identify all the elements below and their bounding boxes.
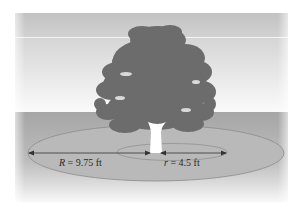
tree-area-diagram: R = 9.75 ft r = 4.5 ft bbox=[0, 0, 305, 210]
inner-radius-label: r = 4.5 ft bbox=[164, 157, 200, 168]
outer-radius-label: R = 9.75 ft bbox=[58, 157, 102, 168]
